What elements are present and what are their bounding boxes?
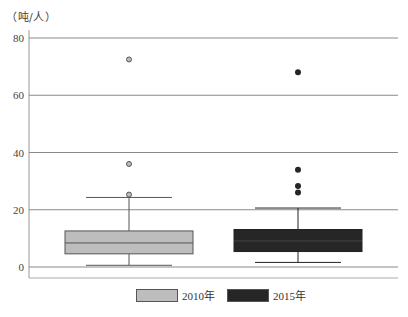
outlier-2015-1: [295, 183, 301, 189]
y-tick-label-40: 40: [13, 147, 25, 159]
legend-item-2015: 2015年: [227, 287, 306, 303]
legend-label-2010: 2010年: [182, 287, 215, 303]
outlier-2015-2: [295, 167, 301, 173]
outlier-2010-2: [127, 57, 132, 62]
legend-label-2015: 2015年: [273, 287, 306, 303]
box-2010: [65, 231, 193, 254]
boxplot-chart: 020406080: [0, 0, 408, 285]
legend-swatch-2010: [136, 289, 178, 302]
y-tick-label-0: 0: [19, 261, 25, 273]
outlier-2015-0: [295, 190, 301, 196]
outlier-2015-3: [295, 69, 301, 75]
outlier-2010-1: [127, 161, 132, 166]
y-tick-label-80: 80: [13, 32, 25, 44]
legend: 2010年 2015年: [136, 287, 318, 303]
legend-item-2010: 2010年: [136, 287, 215, 303]
legend-swatch-2015: [227, 289, 269, 302]
outlier-2010-0: [127, 192, 132, 197]
y-tick-label-60: 60: [13, 89, 25, 101]
y-tick-label-20: 20: [13, 204, 25, 216]
